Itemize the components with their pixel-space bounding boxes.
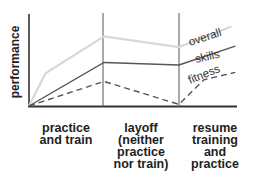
phase-label-line: practice — [178, 158, 252, 170]
series-label-overall: overall — [187, 26, 223, 48]
phase-label-line: nor train) — [104, 158, 178, 170]
phase-label-line: and train — [29, 134, 103, 146]
series-label-fitness: fitness — [186, 62, 222, 86]
phase-label-3: resumetrainingandpractice — [178, 122, 252, 170]
phase-label-2: layoff(neitherpracticenor train) — [104, 122, 178, 170]
y-axis-label: performance — [8, 25, 22, 98]
phase-label-1: practiceand train — [29, 122, 103, 146]
